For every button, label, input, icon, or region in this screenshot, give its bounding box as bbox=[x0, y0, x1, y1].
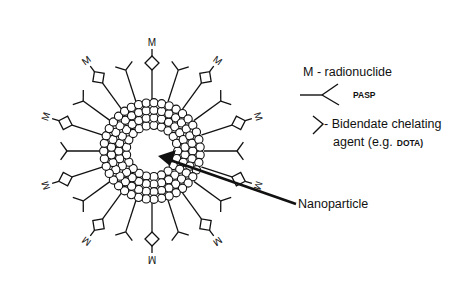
legend-pasp: PASP bbox=[353, 90, 376, 100]
legend-chelator-line1: - Bidendate chelating bbox=[324, 117, 441, 131]
chelator-radionuclide: M bbox=[145, 37, 159, 101]
pasp-ligand bbox=[192, 180, 231, 212]
radionuclide-label: M bbox=[39, 180, 52, 191]
chelator-radionuclide: M bbox=[39, 166, 104, 191]
chelator-radionuclide: M bbox=[181, 54, 224, 111]
radionuclide-label: M bbox=[148, 254, 156, 265]
pasp-ligand bbox=[202, 142, 243, 160]
legend-radionuclide: M - radionuclide bbox=[303, 65, 392, 79]
pasp-ligand bbox=[115, 61, 136, 103]
pasp-ligand bbox=[61, 142, 102, 160]
diagram-canvas: MMMMMMMMMM Nanoparticle M - radionuclide… bbox=[0, 0, 454, 305]
legend-dota: DOTA) bbox=[397, 138, 423, 148]
nanoparticle-label: Nanoparticle bbox=[298, 197, 368, 211]
pasp-ligand bbox=[73, 180, 112, 212]
radionuclide-label: M bbox=[39, 111, 52, 122]
radionuclide-label: M bbox=[252, 111, 265, 122]
radionuclide-label: M bbox=[148, 37, 156, 48]
legend-chelator-prefix: agent (e.g. bbox=[333, 135, 393, 149]
pasp-ligand bbox=[167, 61, 188, 103]
chelator-radionuclide: M bbox=[145, 201, 159, 265]
pasp-ligand bbox=[192, 90, 231, 122]
nanoparticle-core bbox=[100, 99, 205, 204]
chelator-radionuclide: M bbox=[181, 191, 224, 248]
pasp-ligand bbox=[115, 199, 136, 241]
chelator-radionuclide: M bbox=[200, 111, 265, 136]
chelator-radionuclide: M bbox=[200, 166, 265, 191]
radionuclide-label: M bbox=[80, 235, 93, 249]
radionuclide-label: M bbox=[80, 54, 93, 68]
pasp-icon bbox=[300, 84, 339, 105]
chelator-icon bbox=[313, 116, 323, 134]
legend: M - radionuclide PASP - Bidendate chelat… bbox=[300, 65, 441, 149]
pasp-ligand bbox=[167, 199, 188, 241]
legend-chelator-line2: agent (e.g.DOTA) bbox=[333, 135, 423, 149]
radionuclide-label: M bbox=[211, 235, 224, 249]
radionuclide-label: M bbox=[211, 54, 224, 68]
chelator-radionuclide: M bbox=[39, 111, 104, 136]
chelator-radionuclide: M bbox=[80, 191, 123, 248]
chelator-radionuclide: M bbox=[80, 54, 123, 111]
pasp-ligand bbox=[73, 90, 112, 122]
